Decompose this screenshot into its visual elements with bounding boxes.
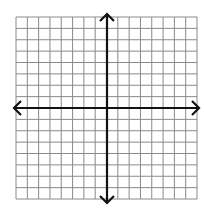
coordinate-plane	[0, 0, 204, 214]
axes	[14, 14, 199, 203]
